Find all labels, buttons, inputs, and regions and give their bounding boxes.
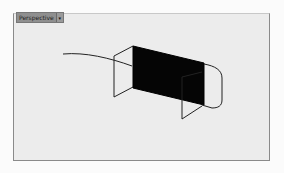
filled-panel-object[interactable] — [133, 46, 204, 105]
scene-canvas[interactable] — [0, 0, 284, 173]
curve-object[interactable] — [63, 54, 132, 66]
rounded-loop-object[interactable] — [202, 64, 222, 108]
front-frame-object[interactable] — [114, 46, 133, 97]
